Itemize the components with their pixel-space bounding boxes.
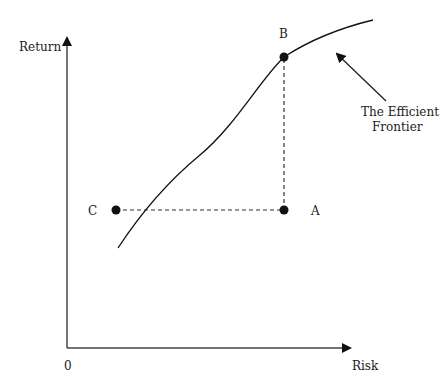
efficient-frontier-curve [118, 20, 373, 248]
annotation-line-1: The Efficient [361, 105, 439, 119]
efficient-frontier-diagram: Return Risk 0 B A C The Efficient Fronti… [0, 0, 445, 381]
origin-label: 0 [64, 359, 72, 373]
point-b [280, 53, 289, 62]
point-b-label: B [279, 27, 288, 41]
annotation-arrow [337, 54, 386, 101]
point-a-label: A [310, 204, 320, 218]
annotation-line-2: Frontier [372, 120, 423, 134]
point-a [280, 206, 289, 215]
point-c [112, 206, 121, 215]
y-axis-label: Return [19, 40, 61, 54]
x-axis-label: Risk [352, 359, 379, 373]
point-c-label: C [88, 204, 97, 218]
